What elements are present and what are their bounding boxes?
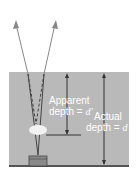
ray-arrowhead-left bbox=[13, 20, 19, 29]
object-icon bbox=[29, 156, 47, 166]
apparent-image bbox=[29, 125, 47, 135]
actual-depth-label: Actual depth = d bbox=[86, 111, 127, 133]
ray-arrowhead-right bbox=[52, 20, 58, 29]
diagram-rays bbox=[0, 0, 139, 183]
